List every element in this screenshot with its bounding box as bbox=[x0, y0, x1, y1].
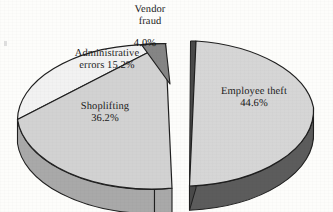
slice-label-employee-theft-name: Employee theft bbox=[196, 86, 312, 98]
slice-side-shoplifting-right bbox=[155, 188, 173, 212]
slice-label-vendor-fraud-line2: fraud bbox=[110, 16, 190, 28]
pie-chart: Vendor fraud 4.0% Administrative errors … bbox=[0, 0, 333, 212]
slice-label-vendor-fraud: Vendor fraud bbox=[110, 4, 190, 29]
slice-label-vendor-fraud-line1: Vendor bbox=[110, 4, 190, 16]
slice-label-administrative-errors-value: errors 15.2% bbox=[44, 60, 170, 72]
slice-label-shoplifting-value: 36.2% bbox=[50, 113, 160, 125]
slice-label-employee-theft-value: 44.6% bbox=[196, 98, 312, 110]
slice-label-employee-theft: Employee theft 44.6% bbox=[196, 86, 312, 111]
slice-label-shoplifting: Shoplifting 36.2% bbox=[50, 101, 160, 126]
slice-label-administrative-errors-name: Administrative bbox=[44, 48, 170, 60]
scan-artifact-speck bbox=[4, 41, 7, 46]
slice-label-shoplifting-name: Shoplifting bbox=[50, 101, 160, 113]
slice-label-administrative-errors: Administrative errors 15.2% bbox=[44, 48, 170, 73]
